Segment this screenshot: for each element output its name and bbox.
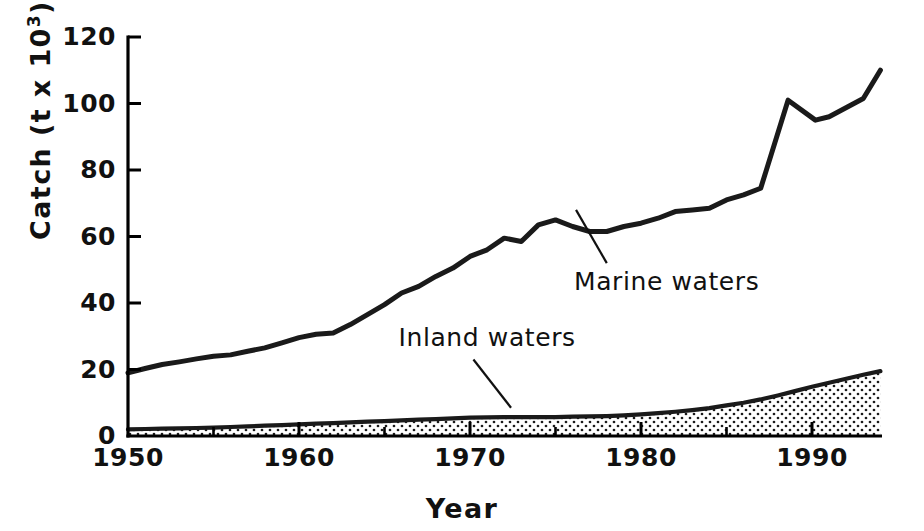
y-axis-ticks [128,37,141,370]
y-tick-label-60: 60 [80,222,116,251]
inland-waters-label-text: Inland waters [398,323,575,352]
y-tick-label-120: 120 [62,22,116,51]
inland-waters-label-leader [473,360,511,408]
x-tick-label-1970: 1970 [434,443,506,472]
marine-waters-label-leader [576,210,607,263]
x-tick-label-1980: 1980 [605,443,677,472]
plot-area [128,70,880,436]
y-tick-label-20: 20 [80,355,116,384]
x-tick-label-1950: 1950 [92,443,164,472]
marine-waters-label: Marine waters [574,210,759,296]
y-tick-label-40: 40 [80,288,116,317]
y-tick-label-80: 80 [80,155,116,184]
x-tick-label-1990: 1990 [776,443,848,472]
fisheries-catch-chart: 020406080100120 19501960197019801990 Mar… [0,0,924,531]
x-axis-tick-labels: 19501960197019801990 [92,443,848,472]
marine-waters-label-text: Marine waters [574,267,759,296]
x-axis-title: Year [425,493,499,524]
y-axis-title: Catch (t x 103) [24,0,56,240]
y-tick-label-100: 100 [62,89,116,118]
chart-svg: 020406080100120 19501960197019801990 Mar… [0,0,924,531]
inland-waters-label: Inland waters [398,323,575,408]
x-tick-label-1960: 1960 [263,443,335,472]
annotations: Marine watersInland waters [398,210,759,408]
y-axis-tick-labels: 020406080100120 [62,22,116,450]
